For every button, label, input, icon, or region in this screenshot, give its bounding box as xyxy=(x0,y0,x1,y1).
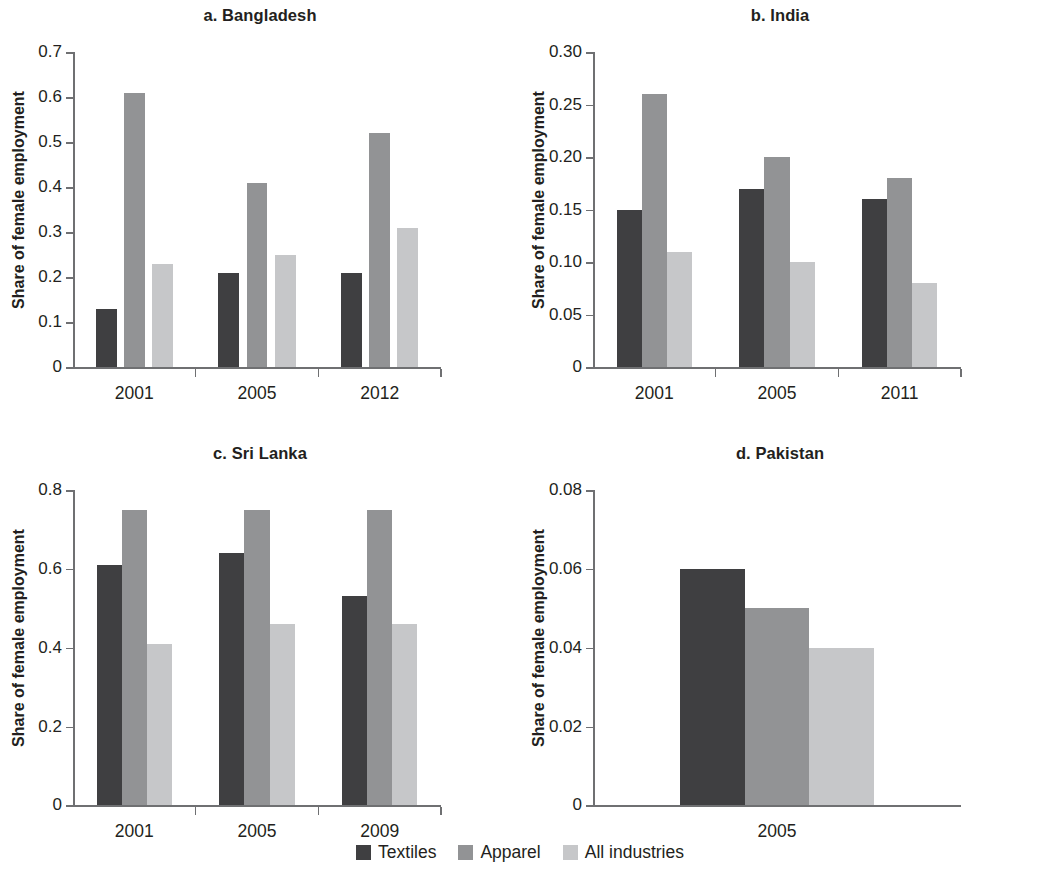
plot-area: 00.050.100.150.200.250.30200120052011 xyxy=(593,52,961,369)
y-axis-tick-label: 0.30 xyxy=(549,42,582,62)
legend-item: Apparel xyxy=(458,842,540,863)
y-axis-tick-label: 0.4 xyxy=(38,638,62,658)
y-axis-tick xyxy=(66,367,73,369)
x-axis-tick-label: 2012 xyxy=(360,383,399,404)
x-axis-tick xyxy=(440,369,442,377)
plot-area: 00.020.040.060.082005 xyxy=(593,490,961,807)
y-axis-tick-label: 0.20 xyxy=(549,147,582,167)
y-axis-tick-label: 0.1 xyxy=(38,312,62,332)
legend-swatch-icon xyxy=(458,845,473,860)
bar-all-industries-2005 xyxy=(275,255,296,368)
y-axis-tick xyxy=(586,52,593,54)
y-axis-tick xyxy=(66,277,73,279)
panel-title: a. Bangladesh xyxy=(0,6,520,25)
y-axis-tick-label: 0.2 xyxy=(38,267,62,287)
y-axis-tick xyxy=(66,142,73,144)
bar-apparel-2001 xyxy=(122,510,147,806)
x-axis-tick-label: 2005 xyxy=(758,821,797,842)
panel-d-pakistan: d. Pakistan Share of female employment 0… xyxy=(520,438,1040,876)
legend: TextilesApparelAll industries xyxy=(0,842,1040,863)
plot-area: 00.20.40.60.8200120052009 xyxy=(73,490,441,807)
x-axis-tick xyxy=(838,369,840,377)
y-axis-tick-label: 0 xyxy=(573,795,582,815)
bar-textiles-2012 xyxy=(341,273,362,368)
y-axis-tick xyxy=(66,322,73,324)
x-axis-tick-label: 2001 xyxy=(115,821,154,842)
figure-grouped-bar-panels: a. Bangladesh Share of female employment… xyxy=(0,0,1040,876)
bar-all-industries-2009 xyxy=(392,624,417,805)
bar-apparel-2012 xyxy=(369,133,390,367)
y-axis-tick-label: 0.6 xyxy=(38,559,62,579)
x-axis-tick-label: 2011 xyxy=(881,383,919,404)
y-axis-tick xyxy=(66,727,73,729)
y-axis-tick-label: 0.02 xyxy=(549,717,582,737)
bar-apparel-2001 xyxy=(124,93,145,368)
bar-all-industries-2005 xyxy=(790,262,815,367)
panel-title: b. India xyxy=(520,6,1040,25)
y-axis-tick-label: 0.6 xyxy=(38,87,62,107)
bar-textiles-2005 xyxy=(739,189,764,368)
bar-all-industries-2005 xyxy=(270,624,295,805)
y-axis-tick xyxy=(66,52,73,54)
x-axis-tick xyxy=(318,807,320,815)
y-axis-tick xyxy=(66,97,73,99)
x-axis-tick-label: 2001 xyxy=(635,383,674,404)
y-axis-tick-label: 0.8 xyxy=(38,480,62,500)
bar-textiles-2001 xyxy=(97,565,122,805)
y-axis-tick-label: 0.25 xyxy=(549,95,582,115)
panel-c-sri-lanka: c. Sri Lanka Share of female employment … xyxy=(0,438,520,876)
y-axis-tick xyxy=(586,157,593,159)
y-axis-tick xyxy=(586,727,593,729)
legend-label: Apparel xyxy=(480,842,540,863)
y-axis-tick xyxy=(586,490,593,492)
y-axis-tick xyxy=(586,315,593,317)
bar-apparel-2011 xyxy=(887,178,912,367)
x-axis-tick-label: 2005 xyxy=(238,383,277,404)
y-axis-tick-label: 0.05 xyxy=(549,305,582,325)
y-axis-tick xyxy=(586,105,593,107)
y-axis-tick-label: 0.08 xyxy=(549,480,582,500)
bar-textiles-2005 xyxy=(680,569,744,806)
x-axis-tick-label: 2009 xyxy=(360,821,399,842)
y-axis-tick xyxy=(66,232,73,234)
y-axis-tick-label: 0.04 xyxy=(549,638,582,658)
x-axis-line xyxy=(73,805,441,807)
bar-all-industries-2005 xyxy=(809,648,873,806)
y-axis-tick-label: 0 xyxy=(53,795,62,815)
bar-apparel-2009 xyxy=(367,510,392,806)
y-axis-tick xyxy=(66,569,73,571)
y-axis-tick xyxy=(586,569,593,571)
y-axis-tick xyxy=(586,210,593,212)
y-axis-label: Share of female employment xyxy=(6,488,32,788)
y-axis-tick xyxy=(586,367,593,369)
legend-label: All industries xyxy=(585,842,684,863)
legend-label: Textiles xyxy=(378,842,436,863)
y-axis-tick xyxy=(66,187,73,189)
y-axis-line xyxy=(73,490,75,807)
x-axis-tick xyxy=(960,369,962,377)
bar-all-industries-2001 xyxy=(147,644,172,806)
y-axis-tick-label: 0.7 xyxy=(38,42,62,62)
panel-title: d. Pakistan xyxy=(520,444,1040,463)
x-axis-line xyxy=(593,805,961,807)
bar-all-industries-2001 xyxy=(667,252,692,368)
y-axis-tick xyxy=(66,490,73,492)
bar-textiles-2009 xyxy=(342,596,367,805)
bar-all-industries-2012 xyxy=(397,228,418,368)
y-axis-line xyxy=(73,52,75,369)
y-axis-tick xyxy=(586,262,593,264)
plot-area: 00.10.20.30.40.50.60.7200120052012 xyxy=(73,52,441,369)
bar-apparel-2005 xyxy=(247,183,268,368)
y-axis-tick-label: 0.15 xyxy=(549,200,582,220)
legend-item: Textiles xyxy=(356,842,436,863)
bar-textiles-2001 xyxy=(617,210,642,368)
y-axis-tick-label: 0.5 xyxy=(38,132,62,152)
bar-apparel-2005 xyxy=(244,510,269,806)
y-axis-tick-label: 0.4 xyxy=(38,177,62,197)
legend-swatch-icon xyxy=(356,845,371,860)
y-axis-label: Share of female employment xyxy=(6,50,32,350)
panel-a-bangladesh: a. Bangladesh Share of female employment… xyxy=(0,0,520,438)
bar-all-industries-2001 xyxy=(152,264,173,368)
bar-textiles-2001 xyxy=(96,309,117,368)
bar-textiles-2011 xyxy=(862,199,887,367)
